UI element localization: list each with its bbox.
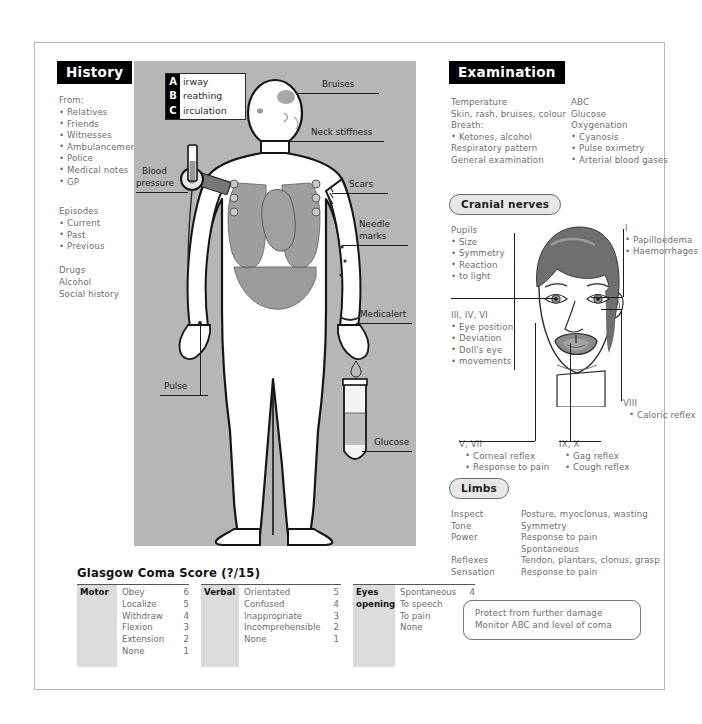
nerve-1-list: Papilloedema Haemorrhages	[625, 235, 698, 258]
gcs-item-name: Spontaneous	[395, 587, 461, 599]
limbs-value: Posture, myoclonus, wasting	[521, 509, 648, 521]
nerve-910-list: Gag reflex Cough reflex	[559, 451, 629, 474]
abc-letter-b: B	[169, 89, 177, 103]
list-item: Friends	[59, 119, 136, 131]
limbs-table: Inspect Posture, myoclonus, wasting Tone…	[451, 509, 660, 579]
leader-pulse	[160, 395, 208, 396]
exam-general: General examination	[451, 155, 566, 167]
table-row: Spontaneous	[451, 544, 660, 556]
limbs-value: Response to pain	[521, 567, 597, 579]
list-item: Papilloedema	[625, 235, 698, 247]
gcs-rows-verbal: Orientated 5 Confused 4 Inappropriate 3 …	[239, 585, 339, 667]
examination-heading: Examination	[449, 61, 565, 84]
gcs-title: Glasgow Coma Score (?/15)	[77, 566, 260, 580]
gcs-item-name: To pain	[395, 611, 461, 623]
cranial-nerve-3-4-6-block: III, IV, VI Eye position Deviation Doll'…	[451, 310, 513, 368]
cranial-nerve-8-block: VIII Caloric reflex	[623, 398, 696, 421]
leader-glucose	[362, 451, 412, 452]
table-row: Spontaneous 4	[395, 587, 475, 599]
leader-neck-stiffness	[279, 141, 384, 142]
list-item: Relatives	[59, 107, 136, 119]
leader-pupils-v	[514, 233, 515, 298]
nerve-57-list: Corneal reflex Response to pain	[459, 451, 549, 474]
history-episodes-list: Current Past Previous	[59, 218, 105, 253]
body-diagram-panel: A B C irway reathing irculation Bruises …	[134, 61, 416, 546]
limbs-label: Inspect	[451, 509, 521, 521]
gcs-item-score: 5	[325, 587, 339, 599]
list-item: Deviation	[451, 333, 513, 345]
limbs-heading: Limbs	[449, 478, 509, 499]
table-row: Localize 5	[117, 599, 189, 611]
gcs-item-name: To speech	[395, 599, 461, 611]
table-row: Flexion 3	[117, 622, 189, 634]
gcs-item-name: Orientated	[239, 587, 325, 599]
table-row: Inappropriate 3	[239, 611, 339, 623]
leader-pupils-eye	[514, 298, 557, 299]
label-needle-marks-line1: Needle	[359, 219, 390, 230]
leader-346-v	[514, 298, 515, 370]
table-row: Inspect Posture, myoclonus, wasting	[451, 509, 660, 521]
pupils-list: Size Symmetry Reaction to light	[451, 237, 505, 283]
leader-pulse-vertical	[200, 325, 201, 395]
cranial-pupils-block: Pupils Size Symmetry Reaction to light	[451, 225, 505, 283]
cranial-nerve-1-block: I Papilloedema Haemorrhages	[625, 223, 698, 258]
list-item: Haemorrhages	[625, 246, 698, 258]
limbs-label	[451, 544, 521, 556]
cranial-nerve-5-7-block: V, VII Corneal reflex Response to pain	[459, 439, 549, 474]
history-episodes-label: Episodes	[59, 206, 98, 218]
list-item: Reaction	[451, 260, 505, 272]
gcs-item-name: Obey	[117, 587, 175, 599]
list-item: Pulse oximetry	[571, 143, 668, 155]
exam-respiratory: Respiratory pattern	[451, 143, 566, 155]
nerve-1-title: I	[625, 223, 698, 235]
gcs-item-name: Flexion	[117, 622, 175, 634]
list-item: Eye position	[451, 322, 513, 334]
limbs-value: Spontaneous	[521, 544, 579, 556]
body-figure-svg	[134, 61, 416, 546]
leader-nerve1-v	[623, 229, 624, 297]
table-row: None 1	[239, 634, 339, 646]
list-item: Size	[451, 237, 505, 249]
leader-910-v	[570, 343, 571, 441]
abc-word-breathing: reathing	[183, 89, 245, 103]
gcs-item-score: 3	[325, 611, 339, 623]
list-item: Cyanosis	[571, 132, 668, 144]
list-item: Witnesses	[59, 130, 136, 142]
list-item: Cough reflex	[565, 462, 629, 474]
list-item: Symmetry	[451, 248, 505, 260]
gcs-block-eyes: Eyes opening Spontaneous 4 To speech 3 T…	[353, 584, 475, 667]
history-social: Social history	[59, 289, 119, 301]
advice-line-2: Monitor ABC and level of coma	[475, 620, 640, 632]
list-item: Ambulancemen	[59, 142, 136, 154]
poster-page: History From: Relatives Friends Witnesse…	[34, 42, 665, 690]
list-item: Previous	[59, 241, 105, 253]
limbs-label: Tone	[451, 521, 521, 533]
leader-910-h	[559, 441, 601, 442]
table-row: Extension 2	[117, 634, 189, 646]
limbs-label: Power	[451, 532, 521, 544]
nerve-8-list: Caloric reflex	[623, 410, 696, 422]
exam-oxygenation-list: Cyanosis Pulse oximetry Arterial blood g…	[571, 132, 668, 167]
advice-line-1: Protect from further damage	[475, 608, 640, 620]
gcs-block-verbal: Verbal Orientated 5 Confused 4 Inappropr…	[201, 584, 341, 667]
table-row: Power Response to pain	[451, 532, 660, 544]
gcs-item-score: 4	[325, 599, 339, 611]
gcs-item-name: Withdraw	[117, 611, 175, 623]
list-item: Current	[59, 218, 105, 230]
abc-letters: A B C	[166, 74, 180, 119]
abc-box: A B C irway reathing irculation	[165, 73, 246, 120]
leader-pupils-h	[451, 298, 514, 299]
gcs-label-verbal: Verbal	[201, 585, 239, 667]
history-from-label: From:	[59, 95, 84, 107]
gcs-item-name: None	[395, 622, 461, 634]
history-alcohol: Alcohol	[59, 277, 91, 289]
examination-right-column: ABC Glucose Oxygenation Cyanosis Pulse o…	[571, 97, 668, 167]
gcs-item-score: 4	[175, 611, 189, 623]
label-needle-marks-line2: marks	[359, 231, 386, 242]
examination-left-column: Temperature Skin, rash, bruises, colour …	[451, 97, 566, 167]
limbs-label: Sensation	[451, 567, 521, 579]
exam-glucose: Glucose	[571, 109, 668, 121]
cranial-nerves-heading: Cranial nerves	[449, 194, 561, 215]
nerve-346-item-cont: movements	[451, 356, 513, 368]
limbs-value: Response to pain	[521, 532, 597, 544]
